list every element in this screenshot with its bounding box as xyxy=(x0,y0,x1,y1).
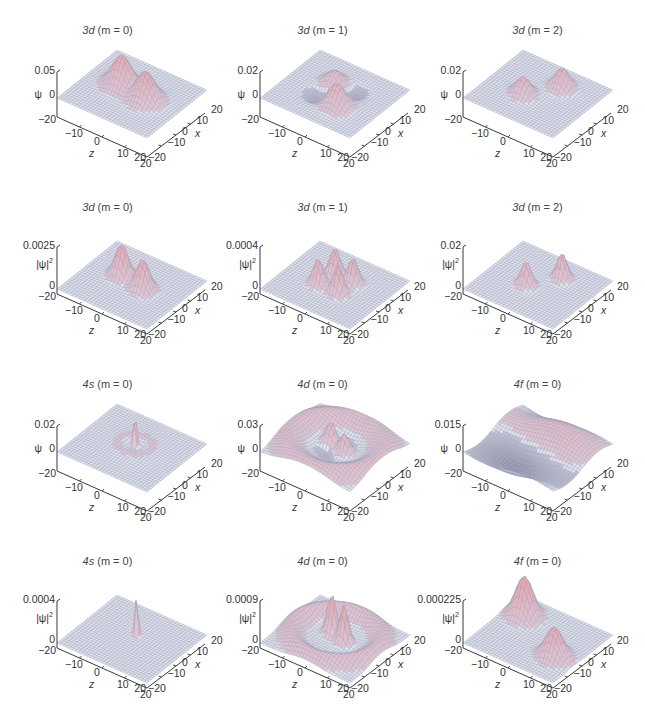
x-coordinate-tick: 10 xyxy=(197,468,209,480)
x-coordinate-tick: 20 xyxy=(414,103,426,115)
z-coordinate-tick: 0 xyxy=(94,666,100,678)
front-axis-min-tick: −20 xyxy=(241,644,259,656)
z-coordinate-end-tick: 20 xyxy=(540,505,552,517)
x-coordinate-tick: 10 xyxy=(603,291,615,303)
front-axis-label: z xyxy=(89,147,94,159)
x-coordinate-tick: −10 xyxy=(371,490,389,502)
x-coordinate-tick: 10 xyxy=(603,645,615,657)
side-axis-label: x xyxy=(601,304,606,316)
surface-plot-panel: 4d(m = 0)0.03ψ0−20−1001020z−20−1001020x2… xyxy=(215,354,430,531)
x-coordinate-tick: 0 xyxy=(385,479,391,491)
z-axis-label: |ψ|2 xyxy=(36,611,53,624)
x-coordinate-tick: −10 xyxy=(574,667,592,679)
z-coordinate-tick: 10 xyxy=(320,147,332,159)
front-axis-label: z xyxy=(292,324,297,336)
x-coordinate-tick: −20 xyxy=(148,328,166,340)
x-coordinate-tick: 10 xyxy=(400,645,412,657)
z-coordinate-end-tick: 20 xyxy=(540,682,552,694)
side-axis-label: x xyxy=(195,304,200,316)
side-axis-label: x xyxy=(398,127,403,139)
front-axis-min-tick: −20 xyxy=(444,467,462,479)
z-coordinate-tick: −10 xyxy=(65,658,83,670)
x-coordinate-tick: 10 xyxy=(603,468,615,480)
z-coordinate-tick: −10 xyxy=(471,127,489,139)
z-axis-zero-tick: 0 xyxy=(252,442,258,454)
z-coordinate-tick: 0 xyxy=(500,135,506,147)
z-axis-label: ψ xyxy=(238,442,246,454)
x-coordinate-tick: 10 xyxy=(400,468,412,480)
x-coordinate-tick: −20 xyxy=(554,151,572,163)
z-axis-label-text: |ψ| xyxy=(239,258,252,270)
z-axis-label: |ψ|2 xyxy=(442,611,459,624)
x-coordinate-tick: 20 xyxy=(414,634,426,646)
front-axis-label: z xyxy=(89,501,94,513)
x-coordinate-tick: −20 xyxy=(351,682,369,694)
front-axis-label: z xyxy=(495,678,500,690)
surface-plot-panel: 3d(m = 1)0.0004|ψ|20−20−1001020z−20−1001… xyxy=(215,177,430,354)
front-axis-label: z xyxy=(495,501,500,513)
z-coordinate-tick: 0 xyxy=(297,312,303,324)
z-coordinate-end-tick: 20 xyxy=(337,505,349,517)
front-axis-label: z xyxy=(292,678,297,690)
surface-plot-panel: 3d(m = 0)0.05ψ0−20−1001020z−20−1001020x2… xyxy=(0,0,215,177)
x-coordinate-tick: 0 xyxy=(385,302,391,314)
x-coordinate-tick: −20 xyxy=(351,328,369,340)
front-axis-min-tick: −20 xyxy=(241,113,259,125)
z-axis-label-exponent: 2 xyxy=(49,611,53,618)
x-coordinate-tick: −20 xyxy=(148,682,166,694)
x-coordinate-tick: 20 xyxy=(617,457,629,469)
front-axis-min-tick: −20 xyxy=(38,644,56,656)
x-coordinate-tick: −20 xyxy=(554,328,572,340)
z-axis-max-tick: 0.02 xyxy=(441,64,461,76)
surface-plot xyxy=(430,0,645,177)
z-axis-label-text: ψ xyxy=(441,442,449,454)
front-axis-min-tick: −20 xyxy=(444,290,462,302)
z-axis-label-exponent: 2 xyxy=(252,257,256,264)
front-axis-label: z xyxy=(89,678,94,690)
z-axis-label-exponent: 2 xyxy=(49,257,53,264)
z-coordinate-tick: 10 xyxy=(117,324,129,336)
z-axis-label-text: |ψ| xyxy=(442,258,455,270)
side-axis-label: x xyxy=(195,127,200,139)
z-axis-label: |ψ|2 xyxy=(239,611,256,624)
x-coordinate-tick: 10 xyxy=(197,291,209,303)
z-axis-label: ψ xyxy=(35,88,43,100)
x-coordinate-tick: −10 xyxy=(168,667,186,679)
x-coordinate-tick: −20 xyxy=(554,682,572,694)
z-axis-label: ψ xyxy=(441,442,449,454)
surface-plot-panel: 4s(m = 0)0.02ψ0−20−1001020z−20−1001020x2… xyxy=(0,354,215,531)
surface-plot-panel: 4f(m = 0)0.000225|ψ|20−20−1001020z−20−10… xyxy=(430,531,645,708)
z-axis-label: |ψ|2 xyxy=(239,257,256,270)
x-coordinate-tick: 0 xyxy=(588,125,594,137)
surface-plot-panel: 3d(m = 2)0.02|ψ|20−20−1001020z−20−100102… xyxy=(430,177,645,354)
x-coordinate-tick: 0 xyxy=(182,656,188,668)
z-axis-label-text: ψ xyxy=(441,88,449,100)
z-coordinate-tick: 10 xyxy=(523,324,535,336)
x-coordinate-tick: −20 xyxy=(554,505,572,517)
front-axis-min-tick: −20 xyxy=(38,113,56,125)
z-axis-max-tick: 0.0004 xyxy=(226,239,258,251)
x-coordinate-tick: −20 xyxy=(351,505,369,517)
z-axis-max-tick: 0.015 xyxy=(435,418,461,430)
x-coordinate-tick: 20 xyxy=(617,103,629,115)
z-coordinate-end-tick: 20 xyxy=(134,151,146,163)
surface-plot-panel: 4d(m = 0)0.0009|ψ|20−20−1001020z−20−1001… xyxy=(215,531,430,708)
z-coordinate-tick: −10 xyxy=(65,127,83,139)
x-coordinate-tick: −20 xyxy=(351,151,369,163)
z-coordinate-tick: 10 xyxy=(523,678,535,690)
side-axis-label: x xyxy=(195,481,200,493)
side-axis-label: x xyxy=(601,481,606,493)
z-axis-label: |ψ|2 xyxy=(442,257,459,270)
z-axis-max-tick: 0.0004 xyxy=(23,593,55,605)
side-axis-label: x xyxy=(398,658,403,670)
z-coordinate-tick: 0 xyxy=(500,489,506,501)
x-coordinate-tick: 0 xyxy=(385,656,391,668)
z-axis-label-text: |ψ| xyxy=(442,612,455,624)
z-coordinate-tick: 0 xyxy=(297,489,303,501)
z-axis-label-text: |ψ| xyxy=(36,612,49,624)
side-axis-label: x xyxy=(601,658,606,670)
front-axis-label: z xyxy=(292,501,297,513)
z-axis-label-exponent: 2 xyxy=(252,611,256,618)
surface-plot xyxy=(430,177,645,354)
z-coordinate-tick: 10 xyxy=(117,678,129,690)
